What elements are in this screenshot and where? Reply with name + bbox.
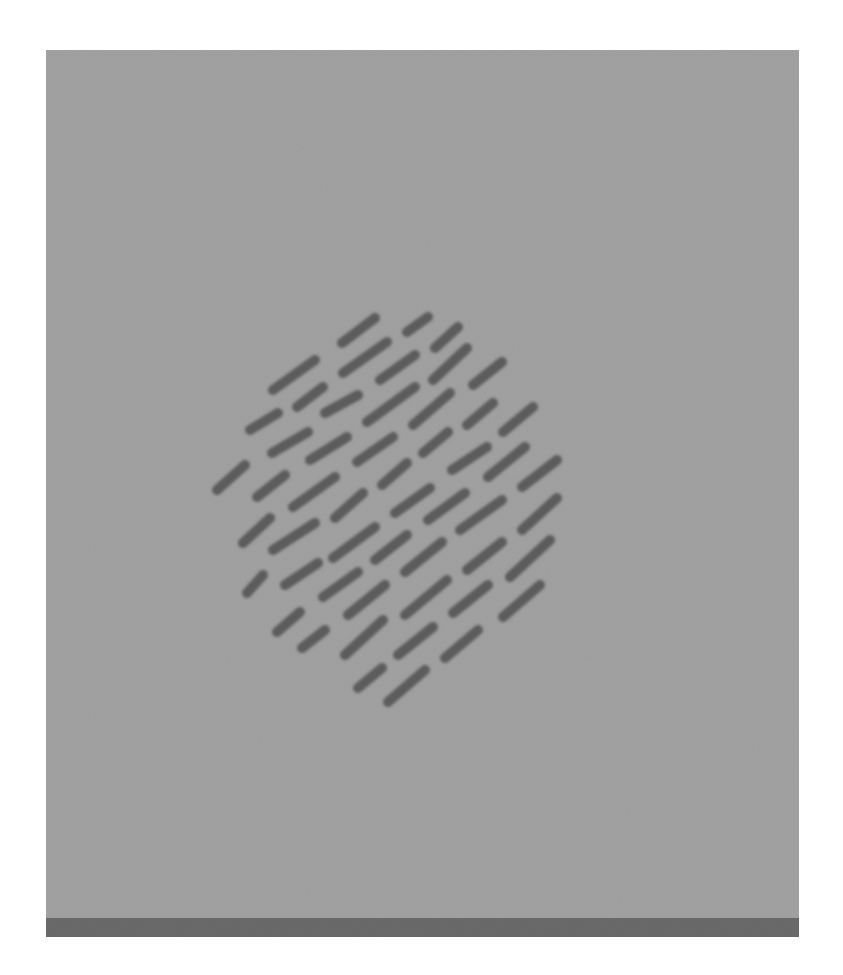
stimulus-figure bbox=[0, 0, 843, 975]
bottom-bar bbox=[46, 918, 799, 937]
stimulus-background bbox=[46, 50, 799, 918]
